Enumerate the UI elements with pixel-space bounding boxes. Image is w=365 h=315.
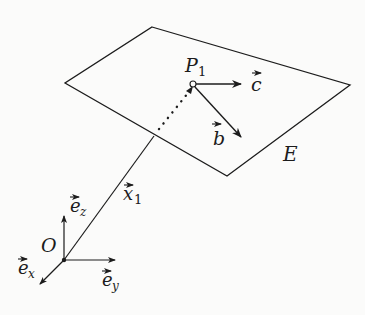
label-ex: e x xyxy=(18,257,35,281)
label-c: c xyxy=(251,73,262,95)
vector-x1-hidden-dotted xyxy=(159,93,188,129)
svg-text:1: 1 xyxy=(134,192,142,207)
label-origin: O xyxy=(41,234,57,256)
label-ey: e y xyxy=(102,269,119,293)
svg-text:y: y xyxy=(111,279,119,293)
svg-text:x: x xyxy=(123,183,133,204)
svg-text:c: c xyxy=(251,73,262,95)
axis-ex-arrow xyxy=(40,260,64,284)
point-p1 xyxy=(190,81,196,87)
label-b: b xyxy=(212,124,225,149)
svg-text:b: b xyxy=(213,127,225,149)
svg-text:P: P xyxy=(184,54,199,76)
svg-text:O: O xyxy=(41,234,57,256)
label-x1: x 1 xyxy=(123,183,142,207)
svg-text:x: x xyxy=(28,267,35,281)
label-p1: P 1 xyxy=(184,54,206,79)
svg-text:1: 1 xyxy=(198,64,206,79)
label-ez: e z xyxy=(70,195,87,219)
svg-text:E: E xyxy=(282,142,298,166)
plane-vector-diagram: P 1 c b E x 1 e z O e x e y xyxy=(0,0,365,315)
label-e: E xyxy=(282,142,298,166)
origin-point xyxy=(62,258,66,262)
svg-text:z: z xyxy=(79,205,87,219)
